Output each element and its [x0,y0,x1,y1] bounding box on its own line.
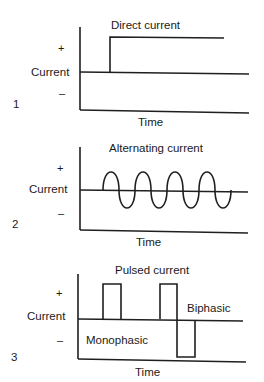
panel-2-minus-sign: – [58,207,65,219]
panel-1-plus-sign: + [58,42,64,54]
panel-3-ylabel: Current [27,310,66,322]
panel-3-time-axis [78,359,246,362]
panel-3-zero-line [78,319,243,321]
panel-3-xlabel: Time [135,366,160,378]
panel-1-dc-trace [110,37,224,72]
panel-3-minus-sign: – [57,334,64,346]
panel-alternating-current: Alternating current + Current – 2 Time [12,142,248,248]
panel-2-ylabel: Current [29,183,68,195]
panel-1-title: Direct current [111,19,181,31]
monophasic-pulse [103,284,121,319]
panel-1-zero-line [80,72,249,74]
biphasic-label: Biphasic [187,302,231,314]
monophasic-label: Monophasic [86,334,148,346]
panel-1-time-axis [80,110,249,113]
panel-1-ylabel: Current [31,66,70,78]
current-types-diagram: Direct current + Current – 1 Time Altern… [0,0,264,382]
panel-2-xlabel: Time [136,236,161,248]
panel-2-time-axis [80,230,248,233]
panel-1-number: 1 [13,98,19,110]
panel-2-title: Alternating current [109,142,204,154]
panel-2-number: 2 [12,218,18,230]
panel-pulsed-current: Pulsed current + Current – 3 Time Monoph… [11,264,246,378]
panel-direct-current: Direct current + Current – 1 Time [13,19,249,128]
panel-3-plus-sign: + [56,287,62,299]
panel-1-minus-sign: – [59,87,66,99]
panel-3-number: 3 [11,351,17,363]
panel-2-plus-sign: + [57,162,63,174]
panel-2-zero-line [80,190,248,192]
panel-1-xlabel: Time [138,116,163,128]
panel-3-title: Pulsed current [115,264,190,276]
